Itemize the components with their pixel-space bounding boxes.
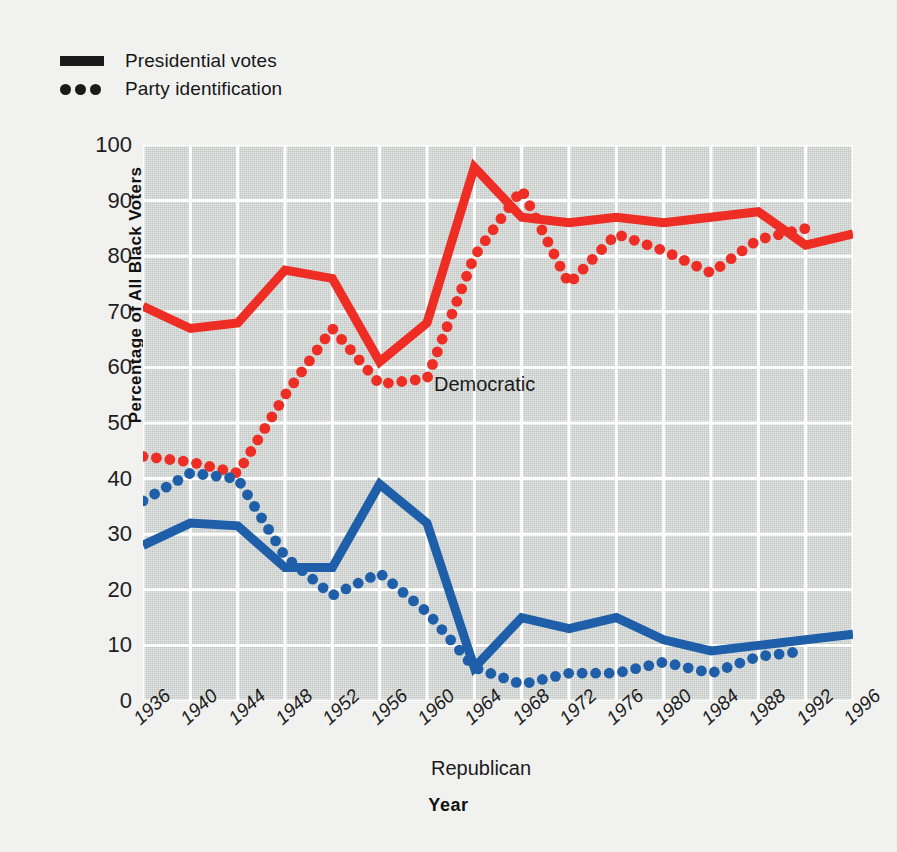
y-axis-tick-labels: 0102030405060708090100 xyxy=(60,145,132,701)
y-tick-label: 20 xyxy=(60,577,132,603)
chart-page: Presidential votes Party identification … xyxy=(0,0,897,852)
solid-line-swatch-icon xyxy=(60,56,112,66)
x-axis-tick-labels: 1936194019441948195219561960196419681972… xyxy=(143,701,853,791)
y-tick-label: 60 xyxy=(60,354,132,380)
dotted-line-swatch-icon xyxy=(60,84,112,95)
y-tick-label: 70 xyxy=(60,299,132,325)
y-tick-label: 10 xyxy=(60,632,132,658)
legend-label-presidential-votes: Presidential votes xyxy=(125,50,277,72)
y-tick-label: 80 xyxy=(60,243,132,269)
legend-label-party-identification: Party identification xyxy=(125,78,282,100)
y-tick-label: 90 xyxy=(60,188,132,214)
y-tick-label: 30 xyxy=(60,521,132,547)
series-label-democratic: Democratic xyxy=(434,373,535,396)
y-tick-label: 50 xyxy=(60,410,132,436)
y-tick-label: 100 xyxy=(60,132,132,158)
y-tick-label: 40 xyxy=(60,466,132,492)
plot-area: Democratic Republican xyxy=(143,145,853,701)
x-axis-title: Year xyxy=(0,795,897,816)
legend-item-party-identification: Party identification xyxy=(60,76,282,102)
y-tick-label: 0 xyxy=(60,688,132,714)
chart-legend: Presidential votes Party identification xyxy=(60,48,282,104)
legend-item-presidential-votes: Presidential votes xyxy=(60,48,282,74)
data-series-layer xyxy=(143,145,853,701)
